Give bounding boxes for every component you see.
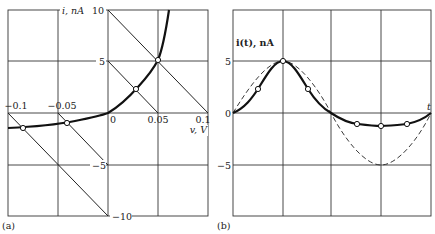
y-tick-label: 5	[225, 56, 231, 67]
x-tick-label: 0.05	[147, 114, 168, 125]
x-tick-label: −0.05	[47, 100, 76, 111]
y-tick-label: 0	[225, 108, 231, 119]
sample-point	[305, 86, 310, 91]
current-waveform	[233, 61, 431, 126]
y-tick-label: −10	[112, 211, 132, 222]
y-tick-label: 10	[92, 5, 104, 16]
y-tick-label: −5	[217, 160, 231, 171]
sample-point	[255, 86, 260, 91]
x-axis-label: v, V	[190, 124, 208, 135]
operating-point	[64, 120, 69, 125]
operating-point	[155, 57, 160, 62]
y-axis-label: i(t), nA	[236, 37, 275, 49]
y-axis-label: i, nA	[62, 5, 84, 16]
operating-point	[20, 125, 25, 130]
panel-label-a: (a)	[2, 220, 15, 231]
load-line	[108, 61, 158, 113]
panel-a: i, nA 10 5 −5 −10 −0.1 −0.05 0 0.05 0.1 …	[2, 4, 211, 231]
sample-point	[404, 121, 409, 126]
panel-b: i(t), nA 5 0 −5 t (b)	[217, 10, 431, 231]
figure: i, nA 10 5 −5 −10 −0.1 −0.05 0 0.05 0.1 …	[0, 0, 435, 234]
x-tick-label: 0	[110, 114, 116, 125]
y-tick-label: 5	[99, 56, 105, 67]
sample-point	[280, 58, 285, 63]
sample-point	[354, 121, 359, 126]
y-tick-label: −5	[92, 160, 106, 171]
panel-label-b: (b)	[217, 220, 231, 231]
x-tick-label: −0.1	[4, 100, 27, 111]
diode-curve	[8, 10, 169, 128]
sample-point	[378, 123, 383, 128]
operating-point	[133, 86, 138, 91]
x-axis-label: t	[427, 101, 431, 112]
